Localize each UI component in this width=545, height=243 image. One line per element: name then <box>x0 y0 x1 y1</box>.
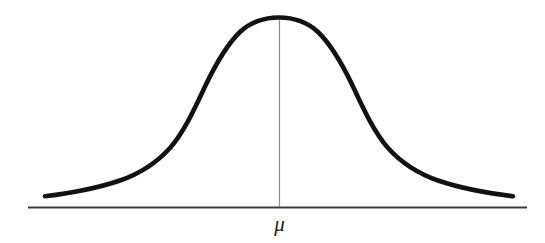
bell-curve-canvas <box>0 0 545 243</box>
bell-curve-figure: μ <box>0 0 545 243</box>
